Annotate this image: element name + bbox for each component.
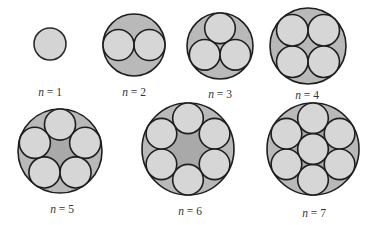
- packing-figure-n3: n = 3: [187, 13, 253, 100]
- label-equals: =: [56, 203, 68, 215]
- label-equals: =: [184, 205, 196, 217]
- label-value: 1: [56, 86, 62, 98]
- label-value: 3: [226, 88, 232, 100]
- inner-circle: [298, 164, 329, 195]
- figure-label: n = 2: [122, 86, 146, 98]
- inner-circle: [271, 118, 302, 149]
- figure-label: n = 5: [50, 203, 74, 215]
- inner-circle: [324, 118, 355, 149]
- figure-label: n = 6: [178, 205, 202, 217]
- packing-figure-n1: n = 1: [34, 28, 66, 98]
- label-equals: =: [44, 86, 56, 98]
- inner-circle: [70, 127, 101, 158]
- inner-circle: [277, 46, 308, 77]
- figure-label: n = 3: [208, 88, 232, 100]
- packing-figure-n5: n = 5: [18, 109, 102, 215]
- inner-circle: [324, 149, 355, 180]
- inner-circle: [308, 15, 339, 46]
- inner-circle: [173, 103, 204, 134]
- inner-circle: [199, 118, 230, 149]
- label-equals: =: [214, 88, 226, 100]
- circle: [34, 28, 66, 60]
- packing-figure-n4: n = 4: [270, 8, 346, 101]
- figure-label: n = 1: [38, 86, 62, 98]
- packing-figure-n2: n = 2: [103, 14, 165, 98]
- inner-circle: [220, 40, 251, 71]
- inner-circle-center: [298, 134, 329, 165]
- inner-circle: [146, 118, 177, 149]
- packing-figure-n7: n = 7: [267, 103, 359, 219]
- label-value: 2: [140, 86, 146, 98]
- packing-figure-n6: n = 6: [142, 103, 234, 217]
- figure-label: n = 7: [302, 207, 326, 219]
- circle-packing-diagram: n = 1n = 2n = 3n = 4n = 5n = 6n = 7: [0, 0, 379, 225]
- inner-circle: [205, 13, 236, 44]
- inner-circle: [277, 15, 308, 46]
- inner-circle: [308, 46, 339, 77]
- inner-circle: [29, 157, 60, 188]
- inner-circle: [173, 164, 204, 195]
- inner-circle: [134, 30, 165, 61]
- inner-circle: [271, 149, 302, 180]
- label-value: 6: [196, 205, 202, 217]
- inner-circle: [298, 103, 329, 134]
- label-equals: =: [308, 207, 320, 219]
- label-equals: =: [301, 89, 313, 101]
- label-value: 7: [320, 207, 326, 219]
- inner-circle: [60, 157, 91, 188]
- figure-label: n = 4: [295, 89, 319, 101]
- inner-circle: [189, 40, 220, 71]
- inner-circle: [146, 149, 177, 180]
- inner-circle: [199, 149, 230, 180]
- inner-circle: [19, 127, 50, 158]
- label-value: 4: [313, 89, 319, 101]
- inner-circle: [103, 30, 134, 61]
- label-value: 5: [68, 203, 74, 215]
- label-equals: =: [128, 86, 140, 98]
